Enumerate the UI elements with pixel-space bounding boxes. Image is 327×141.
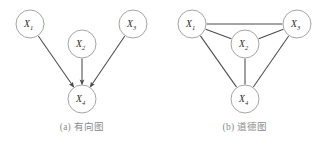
- caption-moral-graph: (b) 道德图: [163, 119, 327, 133]
- edge-X1-X2: [206, 29, 232, 39]
- node-x3: X3: [119, 10, 147, 38]
- node-x1: X1: [178, 10, 206, 38]
- panel-directed-graph: X1X2X3X4 (a) 有向图: [0, 0, 164, 141]
- node-x2: X2: [231, 30, 259, 58]
- node-x1: X1: [16, 10, 44, 38]
- moral-graph-canvas: X1X2X3X4: [163, 0, 327, 120]
- figure-two-graph-comparison: X1X2X3X4 (a) 有向图 X1X2X3X4 (b) 道德图: [0, 0, 327, 141]
- node-x4: X4: [231, 85, 259, 113]
- node-x3: X3: [283, 10, 311, 38]
- node-x4: X4: [68, 85, 96, 113]
- node-x2: X2: [68, 30, 96, 58]
- panel-moral-graph: X1X2X3X4 (b) 道德图: [163, 0, 327, 141]
- edge-X2-X3: [259, 29, 284, 39]
- directed-graph-canvas: X1X2X3X4: [0, 0, 164, 120]
- caption-directed-graph: (a) 有向图: [0, 119, 164, 133]
